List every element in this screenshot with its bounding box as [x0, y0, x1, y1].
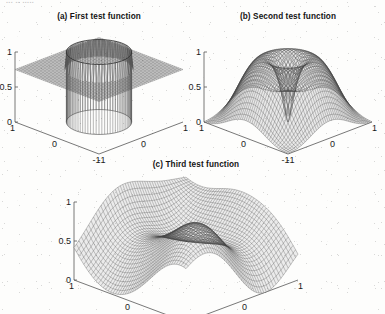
panel-b-title: (b) Second test function	[193, 12, 383, 21]
z-tick-label: 0.5	[0, 82, 12, 92]
x-tick-label: 1	[372, 123, 377, 133]
y-tick-label: 0	[125, 302, 130, 312]
x-tick-label: 0	[330, 139, 335, 149]
scan-header-fragment: ... .. .....	[6, 0, 34, 3]
y-tick-label: 1	[10, 123, 15, 133]
x-tick-label: 1	[183, 123, 188, 133]
surface-plot-b: 00.5110-1-101	[193, 26, 383, 154]
x-tick-label: 0	[242, 302, 247, 312]
panel-b-plot: 00.5110-1-101	[193, 26, 383, 154]
y-tick-label: 1	[69, 281, 74, 291]
panel-a-title: (a) First test function	[4, 12, 194, 21]
z-tick-label: 1	[7, 47, 12, 57]
panel-first-test-function: (a) First test function 00.5110-1-101	[4, 12, 194, 154]
surface-plot-c: 00.511001	[66, 176, 326, 314]
z-tick-label: 1	[66, 197, 71, 207]
y-tick-label: 0	[52, 139, 57, 149]
panel-second-test-function: (b) Second test function 00.5110-1-101	[193, 12, 383, 154]
y-tick-label: 0	[241, 139, 246, 149]
panel-c-plot: 00.511001	[66, 176, 326, 314]
panel-a-plot: 00.5110-1-101	[4, 26, 194, 154]
y-tick-label: 1	[199, 123, 204, 133]
panel-c-title: (c) Third test function	[66, 160, 326, 169]
panel-third-test-function: (c) Third test function 00.511001	[66, 160, 326, 314]
surface-plot-a: 00.5110-1-101	[4, 26, 194, 154]
z-tick-label: 0.5	[188, 82, 201, 92]
z-tick-label: 0.5	[58, 236, 71, 246]
x-tick-label: 0	[141, 139, 146, 149]
x-tick-label: 1	[298, 281, 303, 291]
figure-page: ... .. ..... (a) First test function 00.…	[0, 0, 385, 314]
z-tick-label: 1	[196, 47, 201, 57]
